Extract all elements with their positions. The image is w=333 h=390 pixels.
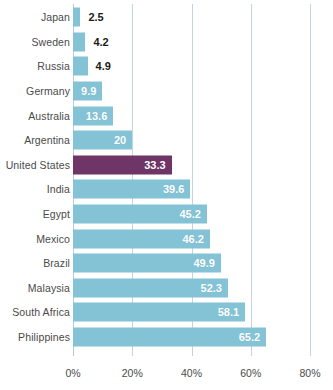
x-tick-label: 80% [299,367,320,379]
category-label: Brazil [43,257,70,269]
chart-row: Argentina20 [0,128,333,153]
category-label: Sweden [31,36,70,48]
chart-row: Malaysia52.3 [0,276,333,301]
bar-value-label: 33.3 [144,159,165,171]
bar [73,8,80,27]
category-label: India [47,183,70,195]
bar-value-label: 13.6 [86,110,107,122]
category-label: Germany [26,85,70,97]
x-tick-label: 40% [181,367,202,379]
bar-value-label: 52.3 [201,282,222,294]
bar-value-label: 9.9 [81,85,96,97]
category-label: Russia [37,60,70,72]
bar [73,32,85,51]
bar-value-label: 2.5 [88,11,103,23]
category-label: Malaysia [28,282,70,294]
bar-value-label: 46.2 [182,233,203,245]
bar-value-label: 65.2 [239,331,260,343]
bar-value-label: 58.1 [218,306,239,318]
bar-value-label: 39.6 [163,183,184,195]
chart-row: Philippines65.2 [0,325,333,350]
plot-area: Japan2.5Sweden4.2Russia4.9Germany9.9Aust… [0,0,333,358]
chart-row: Sweden4.2 [0,30,333,55]
chart-row: Russia4.9 [0,54,333,79]
chart-row: United States33.3 [0,153,333,178]
chart-row: South Africa58.1 [0,300,333,325]
category-label: South Africa [12,306,70,318]
chart-row: Brazil49.9 [0,251,333,276]
category-label: Argentina [24,134,70,146]
x-axis: 0%20%40%60%80% [0,358,333,390]
bar-value-label: 49.9 [193,257,214,269]
x-tick-label: 60% [240,367,261,379]
category-label: Egypt [43,208,70,220]
x-tick-label: 20% [122,367,143,379]
bar-value-label: 4.9 [96,60,111,72]
bar-value-label: 45.2 [179,208,200,220]
bar-value-label: 4.2 [93,36,108,48]
chart-row: Mexico46.2 [0,226,333,251]
x-tick-label: 0% [65,367,80,379]
category-label: Australia [28,110,70,122]
bar [73,57,88,76]
chart-row: Japan2.5 [0,5,333,30]
chart-row: Australia13.6 [0,103,333,128]
category-label: Mexico [36,233,70,245]
bar-chart: Japan2.5Sweden4.2Russia4.9Germany9.9Aust… [0,0,333,390]
bar-value-label: 20 [114,134,126,146]
chart-row: Germany9.9 [0,79,333,104]
category-label: United States [6,159,70,171]
category-label: Japan [41,11,70,23]
category-label: Philippines [18,331,70,343]
chart-row: Egypt45.2 [0,202,333,227]
chart-row: India39.6 [0,177,333,202]
bar [73,328,266,347]
